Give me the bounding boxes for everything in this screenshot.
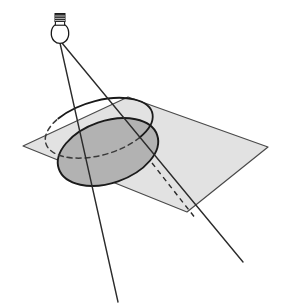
bulb-glass-icon	[51, 25, 68, 44]
scene-svg	[0, 0, 285, 308]
conic-shadow-diagram	[0, 0, 285, 308]
light-bulb	[51, 14, 68, 44]
